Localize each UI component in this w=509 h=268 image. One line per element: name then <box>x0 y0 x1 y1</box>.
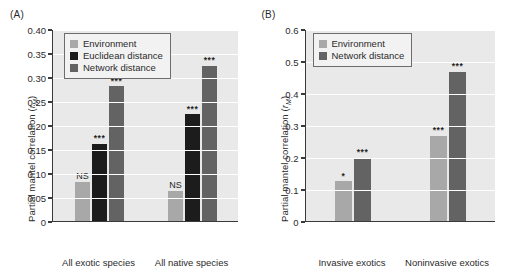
panel-a: (A) Partial mantel correlation (rM) NS**… <box>0 0 255 265</box>
y-axis-tick-label: 0.2 <box>285 153 298 164</box>
y-axis-tick-mark <box>301 125 305 126</box>
y-axis-tick-label: 0.3 <box>285 121 298 132</box>
panel-b: (B) Partial mantel correlation (rM) ****… <box>255 0 509 265</box>
y-axis-tick-mark <box>48 29 52 30</box>
y-axis-tick-label: 0.10 <box>28 169 47 180</box>
panel-a-legend: EnvironmentEuclidean distanceNetwork dis… <box>64 33 171 79</box>
x-axis-category-label: All exotic species <box>62 257 135 268</box>
legend-item: Environment <box>319 38 405 50</box>
legend-item: Network distance <box>319 50 405 62</box>
x-axis-category-label: Invasive exotics <box>318 257 385 268</box>
legend-swatch-icon <box>319 40 327 48</box>
y-axis-tick-mark <box>48 53 52 54</box>
y-axis-tick-label: 0.20 <box>28 121 47 132</box>
legend-label: Environment <box>83 38 136 50</box>
y-axis-tick-label: 0 <box>293 217 298 228</box>
y-axis-tick-label: 0.6 <box>285 25 298 36</box>
legend-swatch-icon <box>70 40 78 48</box>
y-axis-tick-label: 0.40 <box>28 25 47 36</box>
panel-b-y-axis-subscript: M <box>284 99 291 105</box>
legend-item: Euclidean distance <box>70 50 163 62</box>
y-axis-tick-label: 0.05 <box>28 193 47 204</box>
x-axis-category-label: All native species <box>155 257 228 268</box>
legend-label: Euclidean distance <box>83 50 163 62</box>
panel-b-label: (B) <box>262 9 276 20</box>
panel-b-legend: EnvironmentNetwork distance <box>313 33 413 67</box>
y-axis-tick-mark <box>48 221 52 222</box>
y-axis-tick-label: 0.5 <box>285 57 298 68</box>
y-axis-tick-mark <box>48 197 52 198</box>
legend-label: Network distance <box>332 50 405 62</box>
y-axis-tick-label: 0.4 <box>285 89 298 100</box>
legend-item: Environment <box>70 38 163 50</box>
y-axis-tick-mark <box>301 189 305 190</box>
y-axis-tick-mark <box>48 149 52 150</box>
legend-item: Network distance <box>70 62 163 74</box>
y-axis-tick-mark <box>301 93 305 94</box>
legend-swatch-icon <box>70 52 78 60</box>
y-axis-tick-label: 0 <box>41 217 46 228</box>
y-axis-tick-label: 0.1 <box>285 185 298 196</box>
y-axis-tick-mark <box>301 157 305 158</box>
y-axis-tick-mark <box>301 61 305 62</box>
y-axis-tick-label: 0.15 <box>28 145 47 156</box>
y-axis-tick-label: 0.35 <box>28 49 47 60</box>
x-axis-category-label: Noninvasive exotics <box>405 257 489 268</box>
y-axis-tick-mark <box>48 101 52 102</box>
y-axis-tick-label: 0.25 <box>28 97 47 108</box>
y-axis-tick-mark <box>48 173 52 174</box>
legend-label: Environment <box>332 38 385 50</box>
panel-a-label: (A) <box>10 9 24 20</box>
y-axis-tick-mark <box>48 77 52 78</box>
legend-swatch-icon <box>319 52 327 60</box>
legend-label: Network distance <box>83 62 156 74</box>
legend-swatch-icon <box>70 64 78 72</box>
y-axis-tick-mark <box>301 29 305 30</box>
y-axis-tick-mark <box>48 125 52 126</box>
panel-b-y-axis-var: r <box>279 105 290 108</box>
y-axis-tick-label: 0.30 <box>28 73 47 84</box>
y-axis-tick-mark <box>301 221 305 222</box>
